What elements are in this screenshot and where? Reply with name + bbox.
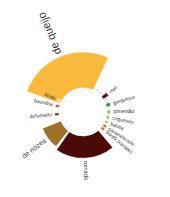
separator-dot [108, 107, 109, 108]
segment-cogumelo [106, 115, 110, 119]
separator-dot [96, 89, 97, 90]
separator-dot [99, 91, 100, 92]
flavor-wheel-chart: de queijomelgordurosopimentãocogumelobat… [0, 0, 170, 197]
separator-dot [107, 102, 108, 103]
separator-dot [98, 90, 99, 91]
segment-mel [101, 92, 108, 99]
separator-dot [100, 93, 101, 94]
label-de-queijo: de queijo [35, 11, 63, 57]
label-de-nozes: de nozes [20, 137, 47, 160]
separator-dot [105, 98, 106, 99]
segment-baunilha [55, 104, 60, 108]
segment-gorduroso [106, 102, 111, 107]
separator-dot [95, 88, 96, 89]
label-pimentão: pimentão [114, 108, 135, 114]
label-defumado: defumado [29, 111, 52, 119]
label-mel: mel [108, 85, 118, 95]
label-gorduroso: gorduroso [112, 94, 136, 106]
label-torrado: torrado [83, 161, 90, 181]
separator-dot [106, 100, 107, 101]
segment-defumado [55, 113, 60, 116]
segment-pimentão [107, 110, 111, 114]
segment-batata [105, 120, 109, 124]
separator-dot [102, 94, 103, 95]
separator-dot [108, 109, 109, 110]
inner-ring [61, 90, 105, 134]
